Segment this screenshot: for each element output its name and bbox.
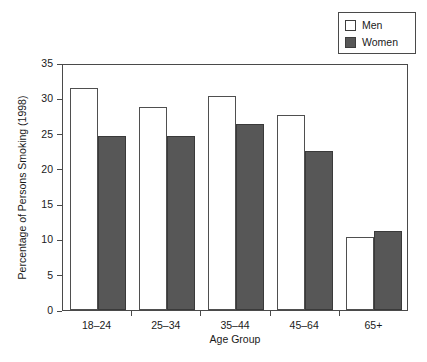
bar-women-3 (305, 151, 333, 310)
y-axis: 05101520253035 (0, 64, 62, 311)
bar-men-2 (208, 96, 236, 310)
legend-swatch-men-icon (345, 20, 356, 31)
x-tick-label: 25–34 (151, 319, 180, 332)
bar-men-3 (277, 115, 305, 310)
x-tick-mark (339, 311, 340, 316)
legend-label-men: Men (362, 20, 382, 31)
legend-label-women: Women (362, 37, 398, 48)
x-axis-title: Age Group (62, 333, 408, 346)
x-tick-label: 18–24 (82, 319, 111, 332)
x-tick-mark (131, 311, 132, 316)
y-tick-label: 25 (41, 128, 53, 141)
bar-men-1 (139, 107, 167, 310)
bar-women-2 (236, 124, 264, 310)
bars-container (63, 65, 407, 310)
x-tick-mark (270, 311, 271, 316)
bar-women-0 (98, 136, 126, 310)
y-tick-label: 0 (47, 304, 53, 317)
bar-men-4 (346, 237, 374, 310)
y-tick-label: 15 (41, 198, 53, 211)
x-tick-mark (200, 311, 201, 316)
y-tick-label: 35 (41, 57, 53, 70)
bar-men-0 (70, 88, 98, 310)
legend-swatch-women-icon (345, 37, 356, 48)
chart-legend: Men Women (338, 12, 416, 54)
bar-chart-figure: Men Women Percentage of Persons Smoking … (0, 0, 427, 362)
y-tick-label: 30 (41, 92, 53, 105)
bar-women-4 (374, 231, 402, 310)
x-tick-label: 65+ (364, 319, 382, 332)
legend-item-men: Men (345, 17, 410, 33)
x-tick-label: 35–44 (220, 319, 249, 332)
y-tick-label: 10 (41, 233, 53, 246)
y-tick-label: 20 (41, 163, 53, 176)
y-tick-label: 5 (47, 269, 53, 282)
x-tick-label: 45–64 (290, 319, 319, 332)
legend-item-women: Women (345, 34, 410, 50)
bar-women-1 (167, 136, 195, 310)
plot-area (62, 64, 408, 311)
